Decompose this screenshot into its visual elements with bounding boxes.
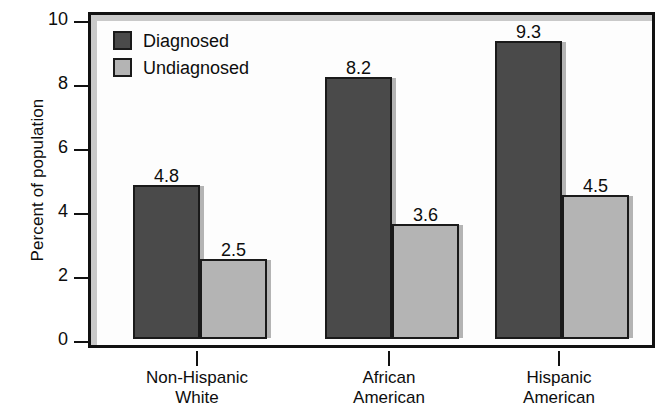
x-axis-tick-mark [388, 351, 390, 366]
y-axis-tick-label: 6 [58, 138, 68, 156]
bar-undiagnosed-1 [200, 259, 267, 339]
bar-value-label: 3.6 [382, 206, 469, 224]
y-axis-tick-label: 4 [58, 202, 68, 220]
y-axis-tick-mark [74, 21, 88, 23]
bar-value-label: 9.3 [485, 23, 572, 41]
legend-swatch-undiagnosed [113, 58, 132, 77]
plot-area: Diagnosed Undiagnosed 4.82.58.23.69.34.5 [88, 12, 655, 348]
y-axis-tick-mark [74, 213, 88, 215]
x-axis-category-label: Non-HispanicWhite [97, 368, 297, 406]
plot-inner: Diagnosed Undiagnosed 4.82.58.23.69.34.5 [91, 15, 652, 345]
bar-value-label: 2.5 [190, 241, 277, 259]
x-axis-category-line2: American [459, 388, 659, 406]
y-axis-tick-label: 10 [48, 10, 68, 28]
bar-chart: Percent of population 0246810 Diagnosed … [0, 0, 661, 406]
x-axis-tick-mark [558, 351, 560, 366]
bar-value-label: 4.5 [552, 177, 639, 195]
bar-diagnosed-1 [133, 185, 200, 339]
y-axis-tick-label: 0 [58, 330, 68, 348]
x-axis-category-line2: White [97, 388, 297, 406]
legend-label-diagnosed: Diagnosed [143, 32, 229, 50]
y-axis-tick-label: 2 [58, 266, 68, 284]
y-axis-tick-mark [74, 341, 88, 343]
legend-item-undiagnosed: Undiagnosed [113, 54, 249, 81]
legend-label-undiagnosed: Undiagnosed [143, 59, 249, 77]
x-axis-category-label: HispanicAmerican [459, 368, 659, 406]
x-axis-category-line1: Non-Hispanic [97, 368, 297, 388]
legend: Diagnosed Undiagnosed [113, 27, 249, 81]
bar-value-label: 8.2 [315, 59, 402, 77]
y-axis-tick-mark [74, 85, 88, 87]
y-axis-tick-mark [74, 149, 88, 151]
bar-undiagnosed-3 [562, 195, 629, 339]
y-axis-tick-label: 8 [58, 74, 68, 92]
legend-swatch-diagnosed [113, 31, 132, 50]
x-axis-tick-mark [196, 351, 198, 366]
y-axis-tick-mark [74, 277, 88, 279]
bar-undiagnosed-2 [392, 224, 459, 339]
x-axis-category-line1: Hispanic [459, 368, 659, 388]
y-axis-title: Percent of population [28, 50, 48, 310]
legend-item-diagnosed: Diagnosed [113, 27, 249, 54]
bar-value-label: 4.8 [123, 167, 210, 185]
